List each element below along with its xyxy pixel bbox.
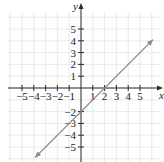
- x-tick-label: 4: [125, 90, 131, 102]
- y-tick-label: −2: [64, 106, 76, 118]
- x-tick-label: 3: [114, 90, 120, 102]
- y-tick-label: −5: [64, 141, 76, 153]
- x-tick-label: −2: [52, 90, 64, 102]
- x-axis-label: x: [158, 89, 164, 101]
- x-tick-label: −4: [28, 90, 40, 102]
- y-tick-label: 3: [71, 47, 77, 59]
- y-tick-label: −3: [64, 117, 76, 129]
- y-axis-arrow-icon: [79, 3, 84, 9]
- y-tick-label: 5: [71, 23, 77, 35]
- y-axis-label: y: [72, 0, 78, 12]
- x-tick-label: −3: [40, 90, 52, 102]
- y-tick-label: −4: [64, 129, 76, 141]
- x-tick-label: −1: [63, 90, 75, 102]
- x-tick-label: 2: [102, 90, 108, 102]
- x-tick-label: −5: [16, 90, 28, 102]
- grid-lines: [8, 12, 160, 162]
- y-axis: [79, 3, 84, 162]
- y-tick-label: 2: [71, 58, 77, 70]
- y-tick-label: 1: [71, 70, 77, 82]
- x-tick-label: 5: [137, 90, 143, 102]
- coordinate-plane: −5−4−3−2−11234554321−2−3−4−5 y x: [0, 0, 164, 162]
- y-tick-label: 4: [71, 35, 77, 47]
